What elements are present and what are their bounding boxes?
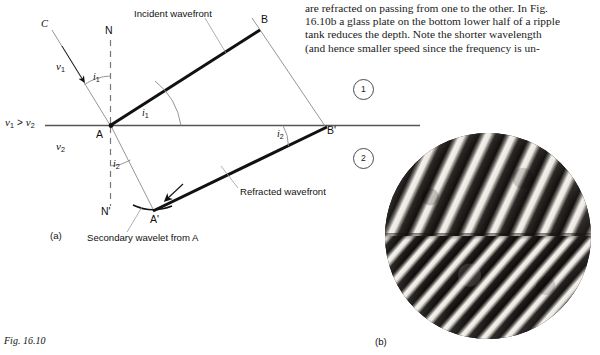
angle-arc-i2-right (283, 126, 289, 147)
incident-wavefront-line (111, 30, 260, 125)
leader-secondary-wavelet (127, 207, 142, 232)
panel-a-label: (a) (50, 230, 62, 241)
label-refracted-wavefront: Refracted wavefront (240, 186, 326, 197)
label-angle-i1-upper: i1 (93, 71, 100, 84)
speed-v1-subscript: 1 (10, 121, 14, 130)
photo-vignette (385, 133, 591, 339)
label-point-N: N (105, 24, 113, 36)
label-secondary-wavelet: Secondary wavelet from A (87, 232, 198, 243)
refracted-wavefront-line (153, 127, 327, 211)
figure-number-label: Fig. 16.10 (4, 335, 45, 346)
label-angle-i1-lower: i1 (142, 107, 149, 120)
label-angle-i2-right: i2 (277, 128, 284, 141)
label-point-C: C (41, 18, 48, 29)
label-angle-i2-left: i2 (113, 158, 120, 171)
label-incident-wavefront: Incident wavefront (134, 8, 212, 19)
speed-v2-subscript: 2 (31, 121, 35, 130)
label-speed-inequality: v1 > v2 (5, 116, 35, 130)
ray-B-to-Bprime (252, 18, 325, 126)
point-A-dot (109, 123, 114, 128)
textbook-page: are refracted on passing from one to the… (0, 0, 600, 355)
label-point-B: B (261, 13, 268, 25)
region-marker-one: 1 (353, 79, 374, 100)
label-speed-v2-region: v2 (56, 140, 65, 154)
ripple-tank-photograph (385, 133, 591, 339)
label-point-A-prime: A' (150, 213, 159, 225)
incident-ray-arrow (62, 46, 83, 80)
region-marker-two: 2 (353, 148, 374, 169)
label-speed-v1-region: v1 (56, 60, 65, 74)
leader-incident-wavefront (205, 18, 226, 53)
label-point-B-prime: B' (327, 124, 336, 136)
label-point-A: A (96, 128, 103, 140)
label-point-N-prime: N' (101, 205, 111, 217)
